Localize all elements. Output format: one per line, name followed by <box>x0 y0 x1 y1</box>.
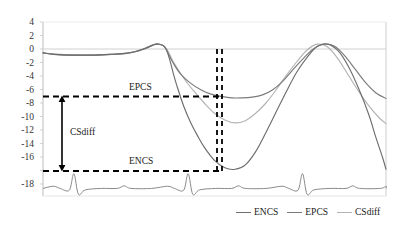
series-line-epcs <box>43 44 386 99</box>
y-tick-label-neg8: -8 <box>8 98 34 108</box>
epcs-annotation-label: EPCS <box>129 82 152 93</box>
chart-figure: 4 2 0 -2 -4 -6 -8 -10 -12 -14 -16 -18 EP… <box>0 0 400 228</box>
y-tick-label-neg18: -18 <box>8 179 34 189</box>
y-tick-label-neg10: -10 <box>8 112 34 122</box>
y-tick-label-neg4: -4 <box>8 71 34 81</box>
legend-label-epcs: EPCS <box>305 207 328 218</box>
y-tick-label-neg14: -14 <box>8 139 34 149</box>
y-tick-label-4: 4 <box>8 17 34 27</box>
y-tick-label-2: 2 <box>8 31 34 41</box>
legend-swatch-csdiff <box>337 212 352 213</box>
encs-annotation-label: ENCS <box>129 156 153 167</box>
legend-swatch-epcs <box>287 212 302 213</box>
chart-legend: ENCS EPCS CSdiff <box>236 207 380 218</box>
ecg-baseline-trace <box>43 174 386 195</box>
y-tick-label-neg2: -2 <box>8 58 34 68</box>
legend-item-encs: ENCS <box>236 207 278 218</box>
csdiff-measure-arrow <box>59 96 66 172</box>
legend-label-encs: ENCS <box>254 207 278 218</box>
y-tick-label-neg12: -12 <box>8 125 34 135</box>
y-tick-label-0: 0 <box>8 44 34 54</box>
series-line-csdiff <box>43 44 386 124</box>
csdiff-annotation-label: CSdiff <box>70 127 95 138</box>
legend-item-epcs: EPCS <box>287 207 328 218</box>
data-series-group <box>43 44 386 170</box>
legend-item-csdiff: CSdiff <box>337 207 380 218</box>
series-line-encs <box>43 44 386 170</box>
y-tick-label-neg16: -16 <box>8 152 34 162</box>
legend-swatch-encs <box>236 212 251 213</box>
y-tick-label-neg6: -6 <box>8 85 34 95</box>
chart-plot-area <box>0 0 400 228</box>
legend-label-csdiff: CSdiff <box>355 207 380 218</box>
